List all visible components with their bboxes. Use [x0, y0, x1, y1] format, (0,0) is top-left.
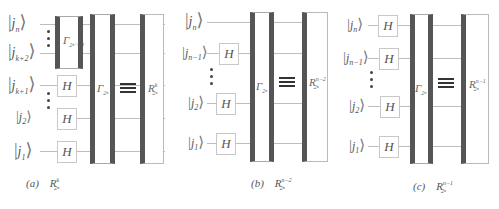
- hadamard-gate: H: [380, 96, 400, 118]
- ket-j1: |j1⟩: [188, 134, 204, 156]
- ellipsis-dots: [47, 92, 50, 113]
- hadamard-gate: H: [379, 48, 399, 70]
- gamma-label: Γ2ⁿ: [415, 82, 426, 96]
- hadamard-gate: H: [219, 43, 239, 65]
- ket-jn1: |jn−1⟩: [343, 49, 369, 71]
- hadamard-gate: H: [378, 15, 398, 37]
- gamma-label: Γ2ⁿ: [97, 82, 108, 96]
- caption-b: (b) Rn−22ⁿ: [251, 177, 285, 191]
- ket-j1: |j1⟩: [14, 142, 33, 166]
- gamma-label: Γ2ⁿ: [256, 80, 267, 94]
- ket-jn: |jn⟩: [8, 14, 27, 38]
- caption-a: (a) Rk2ⁿ: [26, 177, 59, 191]
- equivalence-symbol: [279, 77, 295, 89]
- hadamard-gate: H: [57, 141, 77, 163]
- ket-jk2: |jk+2⟩: [8, 43, 35, 67]
- result-label: Rk2ⁿ: [148, 82, 157, 96]
- ellipsis-dots: [370, 71, 373, 92]
- hadamard-gate: H: [216, 93, 236, 115]
- hadamard-gate: H: [57, 108, 77, 130]
- hadamard-gate: H: [57, 75, 77, 97]
- ket-jn1: |jn−1⟩: [182, 44, 208, 66]
- ket-j2: |j2⟩: [349, 97, 365, 119]
- equivalence-symbol: [120, 83, 136, 95]
- caption-c: (c) Rn−12ⁿ: [413, 180, 446, 194]
- ellipsis-dots: [210, 68, 213, 89]
- equivalence-symbol: [438, 78, 454, 90]
- result-label: Rn−12ⁿ: [469, 78, 479, 92]
- ket-jn: |jn⟩: [347, 16, 363, 38]
- sub-gamma-label: Γ2ⁿ⁻ᵏ⁻¹: [63, 34, 84, 48]
- hadamard-gate: H: [379, 136, 399, 158]
- ket-j2: |j2⟩: [16, 109, 32, 130]
- ket-jn: |jn⟩: [185, 12, 204, 36]
- hadamard-gate: H: [216, 133, 236, 155]
- ket-j2: |j2⟩: [188, 94, 204, 116]
- ellipsis-dots: [47, 30, 50, 51]
- ket-j1: |j1⟩: [349, 137, 365, 159]
- result-label: Rn−22ⁿ: [309, 76, 319, 90]
- ket-jk1: |jk+1⟩: [8, 76, 35, 100]
